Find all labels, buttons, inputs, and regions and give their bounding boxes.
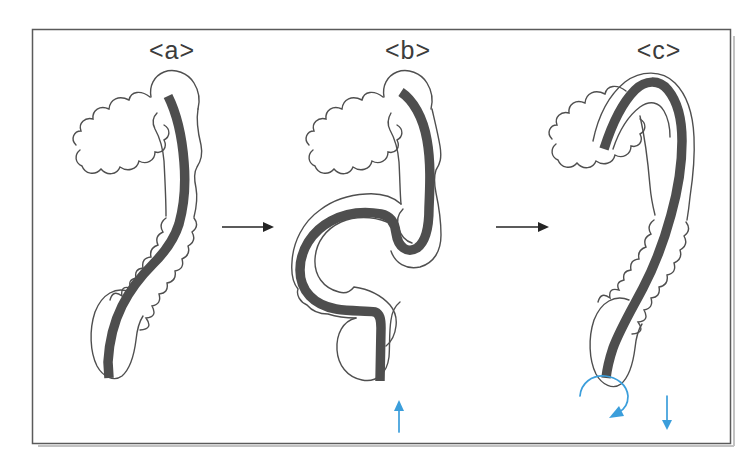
panel-c-drawing [549,73,694,386]
panel-label-a: <a> [149,36,195,64]
torque-arrow-panel-c [580,376,628,418]
transverse-colon-outline [306,92,402,173]
panel-b-drawing [292,71,441,381]
transition-arrow-b-to-c [496,222,549,232]
endoscope-shaft-straightened [604,82,682,378]
diagram-canvas: <a> <b> <c> [0,0,754,466]
right-arrow-head-icon [538,222,549,232]
panel-a-drawing [73,71,202,379]
rotate-arrow-head-icon [609,406,624,418]
panel-label-b: <b> [385,36,431,64]
transverse-colon-outline [73,92,169,173]
descending-colon-left-outline [640,116,655,215]
descending-colon-left-outline [153,113,166,216]
panel-label-c: <c> [637,36,682,64]
figure-stage: <a> <b> <c> [0,0,754,466]
right-arrow-head-icon [263,222,274,232]
descending-colon-right-outline [194,109,202,217]
up-arrow-head-icon [394,400,404,411]
rectum-outline [91,290,143,379]
rotate-clockwise-arrow-icon [580,376,628,412]
down-arrow-head-icon [662,420,672,430]
transition-arrow-a-to-b [222,222,274,232]
push-arrow-panel-b [394,400,404,432]
endoscope-shaft [108,96,185,378]
pullback-arrow-panel-c [662,396,672,430]
endoscope-shaft-looped [300,92,430,381]
